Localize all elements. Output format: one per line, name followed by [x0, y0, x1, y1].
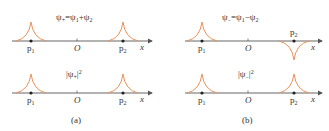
point-p2 — [292, 39, 295, 42]
formula-psi-minus: ψ−=ψ1−ψ2 — [222, 12, 258, 23]
wave-trough-p2 — [279, 41, 309, 60]
label-p2: p2 — [290, 27, 298, 38]
formula-abs-psi-minus-sq: |ψ−|2 — [238, 69, 254, 80]
label-p2: p2 — [119, 95, 127, 106]
panel-b-top: ψ−=ψ1−ψ2 p1 O p2 x — [185, 12, 322, 60]
diagram-canvas: ψ+=ψ1+ψ2 p1 O p2 x |ψ+|2 p1 O p2 x (a) ψ… — [0, 0, 329, 131]
label-x: x — [139, 42, 144, 52]
panel-b-bottom: |ψ−|2 p1 O p2 x (b) — [185, 69, 322, 125]
panel-a-bottom: |ψ+|2 p1 O p2 x (a) — [12, 69, 152, 125]
label-p2: p2 — [290, 95, 298, 106]
label-p1: p1 — [198, 95, 206, 106]
wave-peak-p1 — [187, 22, 217, 41]
label-x: x — [310, 42, 315, 52]
label-origin: O — [74, 95, 81, 105]
density-peak-p2 — [279, 74, 309, 93]
label-origin: O — [245, 95, 252, 105]
label-p1: p1 — [27, 43, 35, 54]
label-p1: p1 — [27, 95, 35, 106]
label-p1: p1 — [198, 43, 206, 54]
label-x: x — [310, 94, 315, 104]
label-origin: O — [74, 43, 81, 53]
caption-a: (a) — [71, 115, 81, 125]
density-peak-p1 — [187, 74, 217, 93]
formula-abs-psi-plus-sq: |ψ+|2 — [66, 69, 82, 80]
wave-peak-p1 — [16, 22, 46, 41]
panel-a-top: ψ+=ψ1+ψ2 p1 O p2 x — [12, 12, 152, 54]
density-peak-p2 — [108, 74, 138, 93]
caption-b: (b) — [242, 115, 253, 125]
label-origin: O — [245, 43, 252, 53]
wave-peak-p2 — [108, 22, 138, 41]
label-x: x — [139, 94, 144, 104]
density-peak-p1 — [16, 74, 46, 93]
label-p2: p2 — [119, 43, 127, 54]
formula-psi-plus: ψ+=ψ1+ψ2 — [56, 12, 92, 23]
